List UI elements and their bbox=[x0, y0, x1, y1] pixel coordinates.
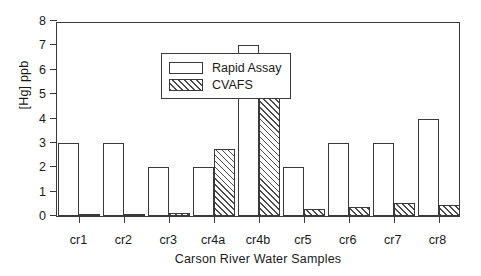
x-tick bbox=[439, 216, 440, 223]
bar-rapid-assay bbox=[58, 143, 79, 216]
y-tick: 7 bbox=[50, 44, 57, 45]
x-tick bbox=[169, 216, 170, 223]
x-tick bbox=[79, 216, 80, 223]
x-tick bbox=[304, 216, 305, 223]
bar-cvafs bbox=[439, 205, 460, 216]
y-tick: 3 bbox=[50, 142, 57, 143]
bar-rapid-assay bbox=[283, 167, 304, 216]
x-tick bbox=[349, 216, 350, 223]
bar-cvafs bbox=[124, 214, 145, 216]
y-tick: 8 bbox=[50, 20, 57, 21]
bar-rapid-assay bbox=[328, 143, 349, 216]
bar-cvafs bbox=[304, 209, 325, 216]
y-tick-label: 0 bbox=[39, 207, 46, 225]
y-tick-label: 4 bbox=[39, 110, 46, 128]
bar-cvafs bbox=[259, 83, 280, 216]
x-tick bbox=[259, 216, 260, 223]
legend-swatch-cvafs bbox=[169, 79, 203, 91]
x-tick-label: cr8 bbox=[408, 233, 468, 247]
bar-cvafs bbox=[394, 203, 415, 216]
legend-item-cvafs: CVAFS bbox=[169, 76, 281, 93]
y-tick: 4 bbox=[50, 118, 57, 119]
x-axis-title: Carson River Water Samples bbox=[56, 252, 460, 266]
x-tick bbox=[394, 216, 395, 223]
x-tick bbox=[124, 216, 125, 223]
x-tick bbox=[214, 216, 215, 223]
chart-legend: Rapid Assay CVAFS bbox=[161, 53, 291, 99]
bar-rapid-assay bbox=[148, 167, 169, 216]
y-tick: 1 bbox=[50, 191, 57, 192]
y-tick-label: 5 bbox=[39, 85, 46, 103]
y-tick-label: 6 bbox=[39, 61, 46, 79]
y-tick-label: 8 bbox=[39, 12, 46, 30]
y-tick: 5 bbox=[50, 93, 57, 94]
y-tick: 2 bbox=[50, 166, 57, 167]
bar-rapid-assay bbox=[103, 143, 124, 216]
legend-swatch-rapid-assay bbox=[169, 62, 203, 74]
plot-area: 012345678 Rapid Assay CVAFS bbox=[56, 22, 460, 217]
bar-cvafs bbox=[79, 214, 100, 216]
y-tick-label: 1 bbox=[39, 183, 46, 201]
y-tick: 0 bbox=[50, 215, 57, 216]
bar-rapid-assay bbox=[418, 119, 439, 217]
legend-label-rapid-assay: Rapid Assay bbox=[212, 61, 281, 75]
y-tick-label: 2 bbox=[39, 158, 46, 176]
y-axis-title: [Hg] ppb bbox=[17, 15, 31, 155]
y-tick-label: 7 bbox=[39, 36, 46, 54]
bar-cvafs bbox=[169, 213, 190, 216]
bar-cvafs bbox=[349, 207, 370, 216]
legend-label-cvafs: CVAFS bbox=[212, 78, 253, 92]
legend-item-rapid-assay: Rapid Assay bbox=[169, 59, 281, 76]
bar-rapid-assay bbox=[193, 167, 214, 216]
bar-cvafs bbox=[214, 149, 235, 216]
chart-figure: [Hg] ppb 012345678 Rapid Assay CVAFS cr1… bbox=[0, 0, 481, 276]
bar-rapid-assay bbox=[373, 143, 394, 216]
y-tick: 6 bbox=[50, 69, 57, 70]
y-tick-label: 3 bbox=[39, 134, 46, 152]
